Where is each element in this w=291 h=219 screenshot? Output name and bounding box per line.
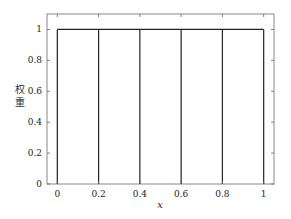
y-tick-label: 0.2 xyxy=(28,148,42,158)
x-axis-ticks: 00.20.40.60.81 xyxy=(54,14,266,199)
x-tick-label: 0.6 xyxy=(174,189,189,199)
plot-lines xyxy=(57,29,263,184)
y-label-char: 权 xyxy=(15,83,25,95)
y-tick-label: 1 xyxy=(36,24,42,34)
x-tick-label: 0 xyxy=(54,189,60,199)
y-axis-label: 权重 xyxy=(15,83,25,108)
y-tick-label: 0.8 xyxy=(28,55,43,65)
chart: 00.20.40.60.81 00.20.40.60.81 x 权重 xyxy=(0,0,291,219)
x-tick-label: 0.2 xyxy=(91,189,105,199)
y-label-char: 重 xyxy=(15,96,25,108)
axes-frame xyxy=(47,14,274,184)
y-axis-ticks: 00.20.40.60.81 xyxy=(28,24,274,189)
x-tick-label: 1 xyxy=(261,189,267,199)
x-tick-label: 0.4 xyxy=(133,189,148,199)
axes-box xyxy=(47,14,274,184)
x-tick-label: 0.8 xyxy=(215,189,230,199)
y-tick-label: 0 xyxy=(36,179,42,189)
y-tick-label: 0.6 xyxy=(28,86,43,96)
y-tick-label: 0.4 xyxy=(28,117,43,127)
x-axis-label: x xyxy=(157,199,163,210)
